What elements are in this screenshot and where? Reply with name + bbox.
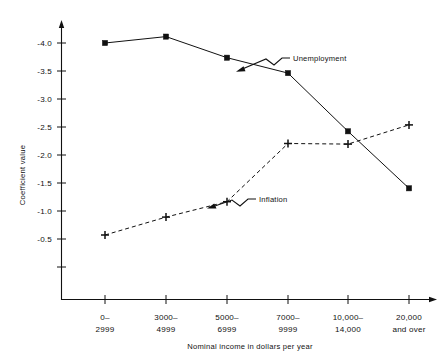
y-tick-label: -4.0: [37, 39, 52, 48]
y-tick-label: -3.0: [37, 95, 52, 104]
x-axis-title: Nominal income in dollars per year: [187, 342, 313, 351]
y-tick-label: -1.5: [37, 179, 52, 188]
x-tick-label-line2: 4999: [157, 325, 176, 334]
chart-figure: -4.0 -3.5 -3.0 -2.5 -2.0 -1.5 -1.0 -0.5 …: [0, 0, 441, 353]
y-tick-label: -0.5: [37, 235, 52, 244]
data-point-marker: [224, 55, 229, 60]
x-tick-label-line1: 10,000–: [333, 313, 364, 322]
x-tick-label-line1: 5000–: [215, 313, 239, 322]
x-tick-label-line1: 0–: [100, 313, 110, 322]
x-tick-label-line1: 20,000: [396, 313, 422, 322]
coefficient-value-line-chart: -4.0 -3.5 -3.0 -2.5 -2.0 -1.5 -1.0 -0.5 …: [0, 0, 441, 353]
data-point-marker: [285, 71, 290, 76]
x-tick-label-line2: and over: [392, 325, 425, 334]
unemployment-annotation-label: Unemployment: [293, 54, 347, 63]
x-tick-label-line2: 2999: [96, 325, 115, 334]
data-point-marker: [102, 40, 107, 45]
data-point-marker: [163, 34, 168, 39]
data-point-marker: [406, 186, 411, 191]
x-tick-label-line2: 9999: [279, 325, 298, 334]
y-tick-label: -1.0: [37, 207, 52, 216]
x-tick-label-line1: 3000–: [154, 313, 178, 322]
y-tick-label: -3.5: [37, 67, 52, 76]
x-tick-label-line2: 6999: [218, 325, 237, 334]
y-tick-label: -2.0: [37, 151, 52, 160]
y-axis-title: Coefficient value: [18, 145, 27, 205]
x-tick-label-line1: 7000–: [276, 313, 300, 322]
data-point-marker: [345, 129, 350, 134]
x-tick-label-line2: 14,000: [335, 325, 361, 334]
inflation-annotation-label: Inflation: [259, 195, 287, 204]
y-tick-label: -2.5: [37, 123, 52, 132]
